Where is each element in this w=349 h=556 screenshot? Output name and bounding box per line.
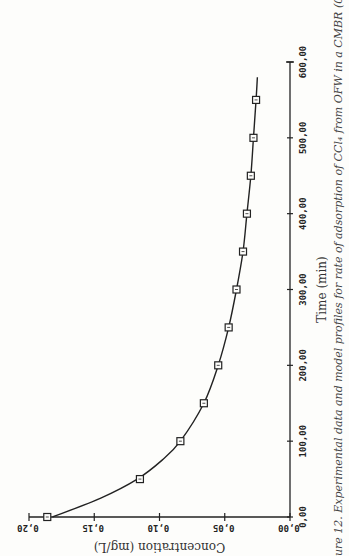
figure-caption: ure 12. Experimental data and model prof… — [332, 0, 345, 556]
axis-labels: 0,00100,00200,00300,00400,00500,00600,00… — [17, 0, 345, 556]
concentration-tick-label: 0,05 — [213, 523, 235, 533]
concentration-time-chart: 0,00100,00200,00300,00400,00500,00600,00… — [0, 0, 349, 556]
model-curve — [52, 77, 257, 517]
time-tick-label: 300,00 — [298, 273, 308, 306]
time-tick-label: 600,00 — [298, 46, 308, 79]
concentration-tick-label: 0,00 — [278, 523, 300, 533]
time-tick-label: 200,00 — [298, 349, 308, 382]
data-markers — [44, 96, 260, 520]
concentration-axis-title: Concentration (mg/L) — [94, 540, 225, 554]
time-tick-label: 400,00 — [298, 197, 308, 230]
concentration-tick-label: 0,10 — [148, 523, 170, 533]
concentration-tick-label: 0,20 — [17, 523, 39, 533]
model-line — [52, 77, 257, 517]
concentration-tick-label: 0,15 — [82, 523, 104, 533]
time-tick-label: 100,00 — [298, 425, 308, 458]
time-tick-label: 500,00 — [298, 122, 308, 155]
time-axis-title: Time (min) — [315, 256, 329, 322]
